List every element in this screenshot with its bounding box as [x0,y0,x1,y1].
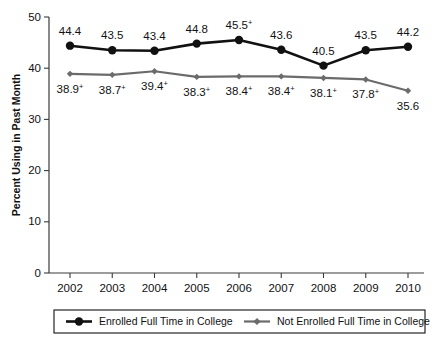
data-label: 38.1+ [310,86,337,99]
data-label: 44.2 [397,26,419,38]
legend-swatch-marker-1 [75,317,83,325]
x-tick-label: 2003 [99,282,125,294]
data-label: 43.4 [143,30,166,42]
y-tick-label: 30 [28,113,41,125]
data-point [194,74,200,80]
data-label: 38.7+ [99,83,126,96]
x-tick-label: 2002 [57,282,83,294]
data-label: 44.4 [59,25,82,37]
x-tick-label: 2005 [184,282,210,294]
x-tick-label: 2007 [268,282,294,294]
data-point [277,46,285,54]
data-point [66,41,74,49]
data-point [235,36,243,44]
data-point [405,88,411,94]
x-tick-label: 2010 [395,282,421,294]
data-point [67,71,73,77]
data-label: 39.4+ [141,79,168,92]
data-point [151,68,157,74]
data-point [109,72,115,78]
data-label: 35.6 [397,100,419,112]
data-label: 40.5 [312,45,334,57]
y-axis-title: Percent Using in Past Month [10,74,22,216]
data-point [193,39,201,47]
y-tick-label: 50 [28,11,41,23]
data-point [362,46,370,54]
legend-label-2: Not Enrolled Full Time in College [277,315,430,327]
y-tick-label: 20 [28,164,41,176]
data-point [363,76,369,82]
data-label: 38.3+ [183,85,210,98]
y-tick-label: 0 [35,267,41,279]
data-label: 45.5+ [226,18,253,31]
line-chart: 01020304050Percent Using in Past Month20… [0,0,435,341]
data-point [404,42,412,50]
data-label: 43.5 [355,29,377,41]
data-label: 38.4+ [268,84,295,97]
data-label: 43.5 [101,29,123,41]
x-tick-label: 2008 [311,282,337,294]
data-label: 43.6 [270,29,292,41]
data-label: 38.4+ [226,84,253,97]
y-tick-label: 40 [28,62,41,74]
data-point [150,47,158,55]
data-label: 38.9+ [57,82,84,95]
data-point [236,73,242,79]
data-point [278,73,284,79]
data-point [108,46,116,54]
x-tick-label: 2009 [353,282,379,294]
data-label: 37.8+ [352,87,379,100]
y-tick-label: 10 [28,215,41,227]
chart-container: 01020304050Percent Using in Past Month20… [0,0,435,341]
data-point [319,61,327,69]
x-tick-label: 2006 [226,282,252,294]
x-tick-label: 2004 [142,282,168,294]
data-point [320,75,326,81]
legend-label-1: Enrolled Full Time in College [99,315,233,327]
data-label: 44.8 [186,23,208,35]
